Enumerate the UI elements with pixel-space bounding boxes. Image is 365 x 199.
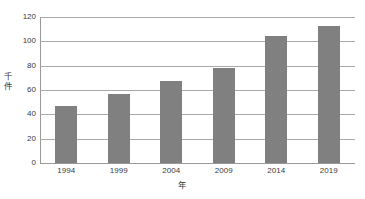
bar-chart: 千 件 020406080100120 19941999200420092014… (0, 0, 365, 199)
bar-1999 (108, 94, 130, 163)
y-tick-label-120: 120 (8, 13, 36, 21)
bar-1994 (55, 106, 77, 163)
bar-2009 (213, 68, 235, 163)
x-tick-label-2014: 2014 (267, 167, 285, 175)
bar-series (40, 17, 355, 163)
bar-slot (303, 17, 356, 163)
y-tick-label-40: 40 (8, 110, 36, 118)
bar-2004 (160, 81, 182, 163)
bar-slot (93, 17, 146, 163)
x-tick-label-2004: 2004 (162, 167, 180, 175)
bar-slot (250, 17, 303, 163)
bar-2014 (265, 36, 287, 163)
y-tick-label-20: 20 (8, 135, 36, 143)
bar-2019 (318, 26, 340, 163)
y-tick-label-60: 60 (8, 86, 36, 94)
x-tick-label-2019: 2019 (320, 167, 338, 175)
y-tick-label-0: 0 (8, 159, 36, 167)
x-tick-label-1994: 1994 (57, 167, 75, 175)
gridline-0 (40, 163, 355, 164)
x-tick-label-2009: 2009 (215, 167, 233, 175)
x-axis-tick-labels: 199419992004200920142019 (40, 167, 355, 181)
bar-slot (145, 17, 198, 163)
bar-slot (198, 17, 251, 163)
y-axis-tick-labels: 020406080100120 (0, 17, 36, 163)
y-tick-label-80: 80 (8, 62, 36, 70)
bar-slot (40, 17, 93, 163)
y-tick-label-100: 100 (8, 37, 36, 45)
x-tick-label-1999: 1999 (110, 167, 128, 175)
x-axis-title: 年 (0, 181, 365, 190)
